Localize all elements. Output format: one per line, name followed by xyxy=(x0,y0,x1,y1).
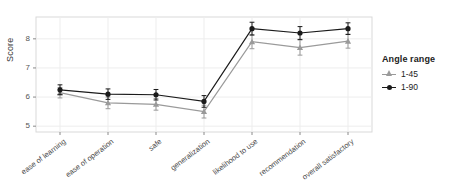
data-point-circle xyxy=(201,99,206,104)
circle-icon xyxy=(382,81,396,93)
data-point-circle xyxy=(105,92,110,97)
legend: Angle range 1-451-90 xyxy=(382,54,448,94)
legend-label: 1-90 xyxy=(401,82,418,92)
legend-label: 1-45 xyxy=(401,69,418,79)
data-point-circle xyxy=(57,87,62,92)
data-point-circle xyxy=(249,26,254,31)
legend-title: Angle range xyxy=(382,54,448,64)
legend-item-1-45: 1-45 xyxy=(382,68,448,80)
legend-item-1-90: 1-90 xyxy=(382,81,448,93)
data-point-circle xyxy=(345,26,350,31)
triangle-icon xyxy=(382,68,396,80)
line-chart: Score 8765 ease of learningease of opera… xyxy=(0,0,450,183)
data-point-circle xyxy=(153,92,158,97)
data-point-circle xyxy=(297,30,302,35)
legend-items: 1-451-90 xyxy=(382,68,448,93)
